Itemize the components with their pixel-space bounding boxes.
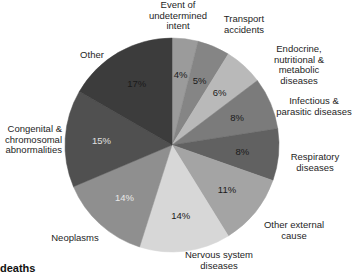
label-infectious: Infectious & parasitic diseases — [272, 96, 353, 117]
slice-percent-label: 14% — [115, 192, 135, 203]
label-event-undetermined-intent: Event of undetermined intent — [146, 0, 210, 32]
slice-percent-label: 15% — [92, 135, 112, 146]
slice-percent-label: 6% — [213, 87, 227, 98]
label-neoplasms: Neoplasms — [40, 233, 110, 244]
label-respiratory: Respiratory diseases — [283, 152, 347, 173]
slice-percent-label: 14% — [171, 210, 191, 221]
label-other-external-cause: Other external cause — [254, 220, 334, 241]
slice-percent-label: 5% — [193, 75, 207, 86]
slice-percent-label: 8% — [235, 146, 249, 157]
footer-caption: deaths — [0, 262, 35, 274]
slice-percent-label: 17% — [127, 78, 147, 89]
label-endocrine: Endocrine, nutritional & metabolic disea… — [263, 44, 335, 86]
slice-percent-label: 8% — [230, 112, 244, 123]
label-other: Other — [72, 50, 112, 61]
label-transport-accidents: Transport accidents — [214, 14, 274, 35]
slice-percent-label: 4% — [174, 69, 188, 80]
slice-percent-label: 11% — [218, 184, 237, 195]
label-nervous-system: Nervous system diseases — [178, 250, 260, 271]
label-congenital: Congenital & chromosomal abnormalities — [0, 124, 62, 156]
